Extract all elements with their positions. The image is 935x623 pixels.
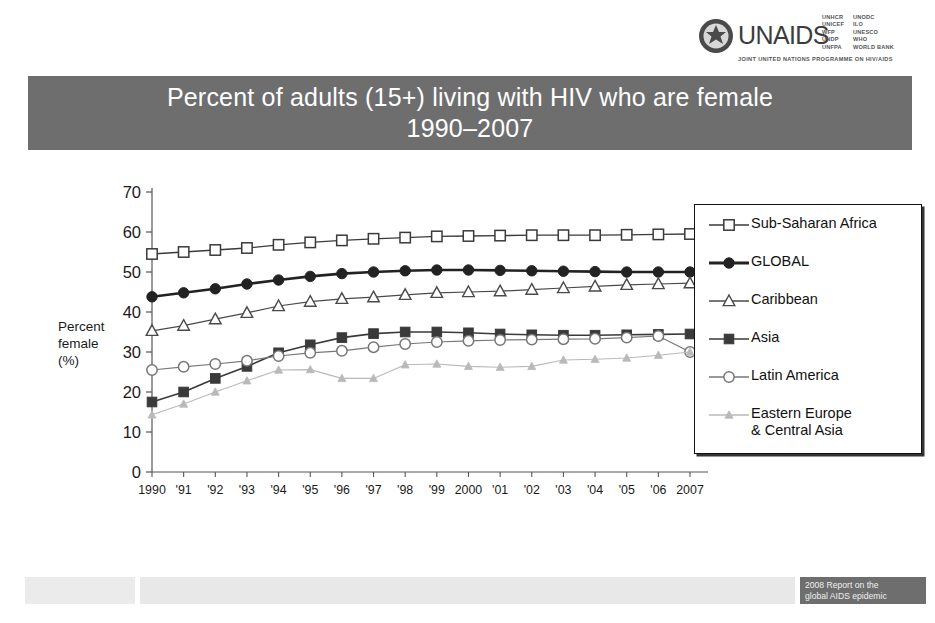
marker-open-circle (305, 348, 315, 358)
marker-filled-square (305, 340, 315, 350)
marker-filled-circle (495, 265, 505, 275)
marker-small-filled-triangle (148, 411, 156, 418)
marker-open-triangle (241, 307, 253, 318)
marker-open-triangle (146, 325, 158, 336)
marker-open-triangle (178, 320, 190, 331)
marker-filled-circle (178, 288, 188, 298)
marker-open-triangle (723, 295, 735, 306)
slide-title-banner: Percent of adults (15+) living with HIV … (28, 76, 912, 150)
report-credit-line1: 2008 Report on the (805, 580, 926, 591)
legend-item[interactable]: Sub-Saharan Africa (695, 215, 921, 253)
y-tick-label: 70 (123, 183, 141, 201)
x-tick-label: '06 (650, 483, 666, 497)
marker-filled-circle (463, 265, 473, 275)
marker-open-square (432, 231, 442, 241)
marker-open-triangle (558, 282, 570, 293)
series-line (152, 352, 690, 415)
x-tick-label: '91 (176, 483, 192, 497)
marker-filled-circle (432, 265, 442, 275)
series-sub_saharan_africa (147, 229, 695, 259)
marker-small-filled-triangle (306, 365, 314, 372)
marker-open-triangle (273, 300, 285, 311)
marker-filled-square (147, 397, 157, 407)
legend-symbol-svg (707, 330, 751, 348)
agency-column-right: UNODC ILO UNESCO WHO WORLD BANK (853, 14, 894, 51)
legend-item[interactable]: GLOBAL (695, 253, 921, 291)
marker-open-square (495, 230, 505, 240)
marker-filled-square (464, 328, 474, 338)
marker-filled-square (242, 362, 252, 372)
marker-filled-circle (147, 292, 157, 302)
marker-open-circle (337, 346, 347, 356)
x-tick-label: '01 (492, 483, 508, 497)
legend-marker-open-circle-icon (707, 368, 751, 386)
legend-marker-small-filled-triangle-icon (707, 406, 751, 424)
x-tick-label: '02 (524, 483, 540, 497)
marker-filled-square (654, 330, 664, 340)
marker-open-circle (147, 365, 157, 375)
marker-open-circle (527, 334, 537, 344)
footer-bar-left (25, 577, 135, 604)
marker-filled-square (527, 330, 537, 340)
legend-item[interactable]: Asia (695, 329, 921, 367)
marker-small-filled-triangle (654, 351, 662, 358)
x-tick-label: '96 (334, 483, 350, 497)
marker-open-circle (622, 332, 632, 342)
footer-bar-right (140, 577, 795, 604)
legend-item[interactable]: Eastern Europe & Central Asia (695, 405, 921, 443)
legend-marker-open-square-icon (707, 216, 751, 234)
marker-open-circle (432, 337, 442, 347)
unaids-logo: UNAIDS UNHCR UNICEF WFP UNDP UNFPA UNODC… (690, 12, 932, 64)
marker-filled-square (495, 329, 505, 339)
x-tick-label: '99 (429, 483, 445, 497)
series-line (152, 336, 690, 370)
marker-open-triangle (431, 287, 443, 298)
marker-open-triangle (589, 280, 601, 291)
marker-filled-square (559, 330, 569, 340)
marker-open-square (147, 249, 157, 259)
marker-open-square (178, 247, 188, 257)
unaids-tagline: JOINT UNITED NATIONS PROGRAMME ON HIV/AI… (738, 56, 893, 62)
marker-filled-circle (210, 284, 220, 294)
marker-filled-square (179, 387, 189, 397)
legend-item[interactable]: Caribbean (695, 291, 921, 329)
marker-filled-square (622, 330, 632, 340)
series-line (152, 234, 690, 254)
unaids-wordmark: UNAIDS (738, 21, 829, 50)
marker-small-filled-triangle (180, 400, 188, 407)
marker-small-filled-triangle (338, 374, 346, 381)
marker-open-triangle (526, 284, 538, 295)
marker-filled-circle (337, 268, 347, 278)
marker-filled-circle (305, 271, 315, 281)
marker-filled-square (590, 330, 600, 340)
marker-filled-square (210, 374, 220, 384)
marker-open-circle (242, 356, 252, 366)
marker-filled-circle (527, 266, 537, 276)
marker-open-square (724, 220, 734, 230)
x-tick-label: 2000 (455, 483, 483, 497)
marker-filled-circle (368, 267, 378, 277)
x-tick-label: '97 (365, 483, 381, 497)
marker-filled-square (724, 334, 734, 344)
legend-symbol-svg (707, 292, 751, 310)
marker-open-circle (273, 351, 283, 361)
marker-open-triangle (653, 278, 665, 289)
marker-open-triangle (621, 279, 633, 290)
page-title-line2: 1990–2007 (407, 113, 534, 144)
x-tick-label: '03 (555, 483, 571, 497)
legend-item[interactable]: Latin America (695, 367, 921, 405)
marker-open-square (337, 235, 347, 245)
marker-small-filled-triangle (401, 361, 409, 368)
marker-open-square (368, 234, 378, 244)
marker-filled-square (274, 348, 284, 358)
marker-filled-circle (724, 258, 734, 268)
x-tick-label: '94 (271, 483, 287, 497)
series-eastern_europe (148, 348, 694, 418)
marker-open-triangle (209, 313, 221, 324)
marker-filled-circle (273, 275, 283, 285)
marker-filled-circle (400, 266, 410, 276)
marker-open-triangle (399, 289, 411, 300)
legend-label: Asia (751, 329, 779, 346)
marker-small-filled-triangle (528, 362, 536, 369)
marker-open-triangle (494, 285, 506, 296)
